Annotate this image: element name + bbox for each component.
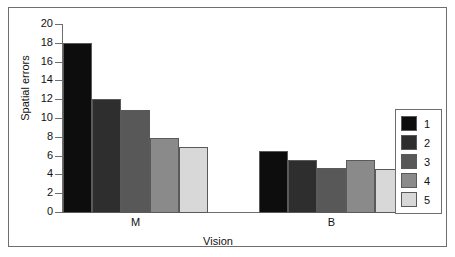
bar [288,160,317,213]
legend-item: 3 [401,152,441,171]
y-axis-tick [55,24,62,25]
legend-swatch [401,116,417,131]
chart-legend: 12345 [395,109,442,214]
legend-swatch [401,154,417,169]
legend-label: 1 [424,118,430,130]
y-axis-tick-label: 2 [17,187,53,199]
y-axis-tick-label-text: 4 [19,168,53,179]
y-axis-title: Spatial errors [19,28,31,148]
y-axis-tick-label-text: 0 [19,206,53,217]
y-axis-tick [55,137,62,138]
y-axis-tick [55,80,62,81]
chart-frame: 02468101214161820 Spatial errors MB Visi… [8,7,447,247]
bar [63,43,92,213]
y-axis-tick [55,212,62,213]
legend-label: 4 [424,175,430,187]
legend-swatch [401,173,417,188]
bar [259,151,288,213]
bar [92,99,121,213]
bar [121,110,150,213]
legend-label: 5 [424,194,430,206]
y-axis-tick [55,193,62,194]
legend-label: 2 [424,137,430,149]
legend-swatch [401,192,417,207]
y-axis-tick-label: 6 [17,150,53,162]
bar [346,160,375,213]
bar [317,168,346,213]
y-axis-tick [55,174,62,175]
y-axis-tick-label: 0 [17,206,53,218]
legend-item: 5 [401,190,441,209]
y-axis-tick [55,118,62,119]
legend-swatch [401,135,417,150]
chart-screenshot: 02468101214161820 Spatial errors MB Visi… [0,0,455,257]
x-axis-group-label: M [106,216,166,228]
x-axis-group-label: B [302,216,362,228]
bars-layer [63,24,374,213]
legend-item: 1 [401,114,441,133]
y-axis-tick [55,99,62,100]
y-axis-tick-label: 4 [17,168,53,180]
y-axis-tick [55,156,62,157]
y-axis-tick-label-text: 2 [19,187,53,198]
bar [150,138,179,213]
x-axis-title: Vision [62,235,374,247]
y-axis-tick-label-text: 6 [19,150,53,161]
bar [179,147,208,213]
y-axis-tick [55,62,62,63]
legend-item: 4 [401,171,441,190]
y-axis-tick [55,43,62,44]
legend-item: 2 [401,133,441,152]
legend-label: 3 [424,156,430,168]
